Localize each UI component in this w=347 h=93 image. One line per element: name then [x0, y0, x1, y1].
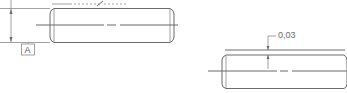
arrow-up-icon: [10, 9, 13, 14]
arrow-down-icon: [267, 46, 270, 50]
height-dimension: [10, 0, 13, 42]
datum-label: A: [25, 45, 31, 55]
tolerance-value: 0,03: [278, 30, 296, 40]
technical-drawing: A 0,03: [0, 0, 347, 93]
arrow-down-icon: [10, 37, 13, 42]
right-pin-body: [222, 55, 347, 89]
datum-a: A: [22, 43, 35, 56]
right-view: 0,03: [208, 30, 347, 89]
top-reference-line: [52, 1, 126, 6]
left-view: A: [0, 0, 178, 55]
arrow-up-icon: [267, 55, 270, 59]
